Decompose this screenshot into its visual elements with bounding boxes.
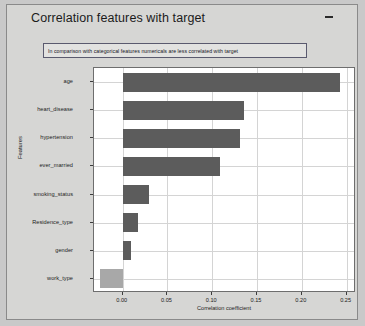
y-axis-tick-label-work_type: work_type (47, 275, 73, 281)
x-axis-title: Correlation coefficient (93, 305, 355, 311)
gridline-vertical (302, 68, 303, 291)
annotation-box: In comparison with categorical features … (43, 43, 307, 58)
figure-titlebar: Correlation features with target (7, 5, 357, 35)
x-axis-tick-label: 0.05 (161, 297, 172, 303)
x-axis-tick-label: 0.20 (295, 297, 306, 303)
x-axis-tick-mark (166, 292, 167, 295)
bar-smoking_status (123, 185, 149, 204)
x-axis-tick-label: 0.00 (116, 297, 127, 303)
x-axis-tick-label: 0.15 (251, 297, 262, 303)
page-title: Correlation features with target (31, 11, 205, 25)
bar-age (123, 73, 341, 92)
x-axis-tick-mark (211, 292, 212, 295)
y-axis-tick-label-Residence_type: Residence_type (32, 219, 73, 225)
y-axis-tick-label-hypertension: hypertension (40, 134, 73, 140)
gridline-vertical (347, 68, 348, 291)
figure-window: Correlation features with target In comp… (6, 4, 358, 320)
bar-ever_married (123, 157, 221, 176)
plot-area (93, 67, 355, 292)
gridline-horizontal (94, 279, 354, 280)
x-axis-tick-mark (301, 292, 302, 295)
bar-heart_disease (123, 101, 245, 120)
bar-Residence_type (123, 213, 138, 232)
y-axis-tick-label-smoking_status: smoking_status (33, 191, 73, 197)
annotation-text: In comparison with categorical features … (48, 48, 238, 54)
bar-gender (123, 241, 131, 260)
x-axis-tick-mark (256, 292, 257, 295)
bar-hypertension (123, 129, 240, 148)
gridline-vertical (257, 68, 258, 291)
gridline-horizontal (94, 251, 354, 252)
minimize-icon[interactable] (325, 16, 333, 18)
y-axis-tick-label-heart_disease: heart_disease (37, 106, 73, 112)
y-axis-tick-label-gender: gender (55, 247, 73, 253)
x-axis-tick-label: 0.10 (206, 297, 217, 303)
y-axis-title: Features (17, 136, 23, 159)
bar-work_type (100, 269, 122, 288)
x-axis-tick-mark (122, 292, 123, 295)
x-axis-tick-mark (346, 292, 347, 295)
y-axis-tick-label-ever_married: ever_married (39, 162, 73, 168)
y-axis-tick-label-age: age (64, 78, 73, 84)
x-axis-tick-label: 0.25 (340, 297, 351, 303)
